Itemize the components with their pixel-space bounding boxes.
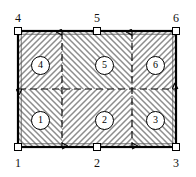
- support-node-4[interactable]: [14, 27, 22, 35]
- node-label-3: 3: [169, 157, 183, 169]
- support-node-5[interactable]: [93, 27, 101, 35]
- support-node-3[interactable]: [172, 143, 180, 151]
- region-marker-2[interactable]: 2: [95, 111, 114, 130]
- region-marker-6[interactable]: 6: [146, 56, 165, 75]
- support-node-6[interactable]: [172, 27, 180, 35]
- node-label-4: 4: [11, 12, 25, 24]
- region-marker-3[interactable]: 3: [146, 111, 165, 130]
- region-marker-4[interactable]: 4: [31, 56, 50, 75]
- support-node-2[interactable]: [93, 143, 101, 151]
- support-node-1[interactable]: [14, 143, 22, 151]
- node-label-1: 1: [11, 157, 25, 169]
- node-label-6: 6: [169, 12, 183, 24]
- node-label-2: 2: [90, 157, 104, 169]
- region-marker-1[interactable]: 1: [31, 111, 50, 130]
- region-marker-5[interactable]: 5: [95, 56, 114, 75]
- node-label-5: 5: [90, 12, 104, 24]
